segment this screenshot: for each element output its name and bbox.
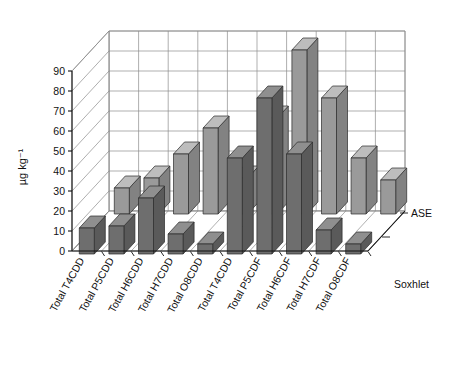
y-tick-label: 60 — [53, 125, 65, 137]
y-tick-label: 10 — [53, 225, 65, 237]
y-tick-label: 20 — [53, 205, 65, 217]
y-tick-label: 30 — [53, 185, 65, 197]
bar — [322, 86, 348, 214]
bar — [203, 116, 229, 214]
bar — [287, 142, 313, 254]
legend-label-ase: ASE — [411, 207, 432, 219]
y-tick-label: 70 — [53, 105, 65, 117]
chart-figure: 0102030405060708090 Total T4CDDTotal P5C… — [0, 0, 451, 381]
grouped-3d-bar-chart: 0102030405060708090 Total T4CDDTotal P5C… — [0, 0, 451, 381]
bar — [227, 146, 253, 254]
legend-label-soxhlet: Soxhlet — [394, 278, 429, 290]
y-tick-label: 90 — [53, 65, 65, 77]
bar — [139, 186, 165, 254]
bar — [351, 146, 377, 214]
y-tick-label: 80 — [53, 85, 65, 97]
y-axis-title: µg kg⁻¹ — [16, 148, 28, 185]
bar — [257, 86, 283, 254]
y-tick-label: 40 — [53, 165, 65, 177]
y-tick-label: 50 — [53, 145, 65, 157]
y-axis-title-text: µg kg⁻¹ — [16, 148, 28, 185]
bar — [174, 142, 200, 214]
y-tick-label: 0 — [59, 245, 65, 257]
